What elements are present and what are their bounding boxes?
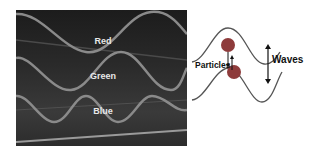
particles-label: Particles (195, 60, 230, 70)
wavelength-photo: Red Green Blue (16, 10, 187, 146)
particle-wave-diagram: Particles Waves (188, 0, 318, 154)
green-label: Green (90, 71, 116, 81)
diagram-graphics (188, 0, 318, 154)
waves-label: Waves (272, 54, 303, 65)
baseline-line (16, 130, 187, 142)
red-wave-line (16, 12, 187, 52)
red-label: Red (94, 36, 111, 46)
particle-upper (221, 38, 235, 52)
blue-label: Blue (93, 106, 113, 116)
